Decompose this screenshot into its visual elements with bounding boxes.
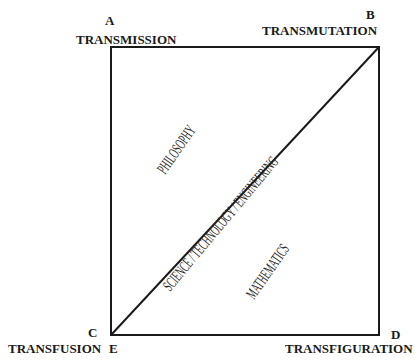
corner-d-letter: D	[391, 328, 400, 341]
corner-b-letter: B	[366, 8, 375, 21]
point-e-letter: E	[109, 342, 118, 355]
corner-c-label: TRANSFUSION	[8, 342, 101, 355]
corner-a-letter: A	[105, 14, 114, 27]
region-philosophy: PHILOSOPHY	[153, 122, 200, 178]
corner-d-label: TRANSFIGURATION	[285, 342, 413, 355]
corner-b-label: TRANSMUTATION	[262, 24, 377, 37]
corner-c-letter: C	[88, 326, 97, 339]
region-mathematics: MATHEMATICS	[242, 240, 293, 302]
diagram-canvas: PHILOSOPHY SCIENCE / TECHNOLOGY / ENGINE…	[0, 0, 418, 364]
corner-a-label: TRANSMISSION	[76, 33, 176, 46]
